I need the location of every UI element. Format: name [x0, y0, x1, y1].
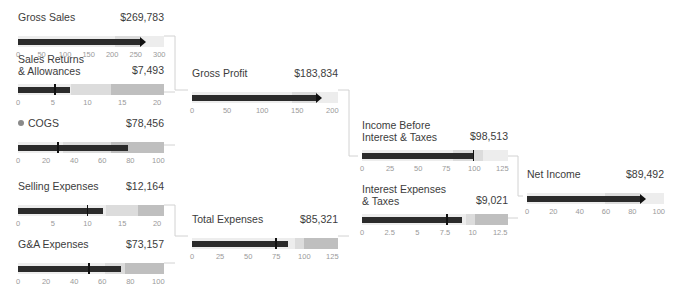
- chart-value-ga-expenses: $73,157: [73, 239, 164, 251]
- axis-tick-label: 5: [51, 219, 55, 228]
- axis-tick-label: 40: [70, 156, 78, 165]
- qualitative-band-3: [138, 205, 164, 216]
- arrow-marker-icon: [640, 194, 646, 204]
- arrow-marker-icon: [316, 93, 322, 103]
- qualitative-band-3: [111, 84, 164, 95]
- qualitative-band-2: [295, 238, 304, 249]
- axis-tick-label: 75: [272, 252, 280, 261]
- axis-tick-label: 60: [98, 277, 106, 286]
- qualitative-band-2: [71, 84, 111, 95]
- bullet-track-gross-sales: [18, 36, 164, 47]
- axis-tick-label: 0: [16, 98, 20, 107]
- bullet-track-ga-expenses: [18, 263, 164, 274]
- axis-tick-label: 50: [244, 252, 252, 261]
- measure-bar-gross-profit: [192, 95, 316, 101]
- axis-tick-label: 150: [82, 50, 95, 59]
- chart-value-total-expenses: $85,321: [247, 214, 338, 226]
- axis-tick-label: 5: [415, 228, 419, 237]
- qualitative-band-3: [475, 214, 508, 225]
- qualitative-band-2: [466, 214, 475, 225]
- axis-tick-label: 60: [98, 156, 106, 165]
- chart-label-gross-sales: Gross Sales: [18, 12, 75, 24]
- qualitative-band-2: [106, 205, 138, 216]
- x-axis-selling-expenses: 05101520: [18, 219, 164, 231]
- axis-tick-label: 10: [83, 219, 91, 228]
- measure-bar-net-income: [527, 196, 640, 202]
- axis-tick-label: 20: [153, 98, 161, 107]
- axis-tick-label: 100: [152, 156, 165, 165]
- target-marker-icon: [87, 205, 89, 216]
- target-marker-icon: [88, 263, 90, 274]
- bullet-track-gross-profit: [192, 92, 338, 103]
- x-axis-cogs: 020406080100: [18, 156, 164, 168]
- measure-bar-gross-sales: [18, 39, 140, 45]
- measure-bar-total-expenses: [192, 241, 288, 247]
- axis-tick-label: 50: [414, 164, 422, 173]
- bullet-track-cogs: [18, 142, 164, 153]
- bullet-waterfall-diagram: Gross Sales$269,783050100150200250300Sal…: [0, 0, 676, 290]
- bullet-track-net-income: [527, 193, 664, 204]
- axis-tick-label: 0: [16, 277, 20, 286]
- axis-tick-label: 0: [190, 106, 194, 115]
- axis-tick-label: 250: [129, 50, 142, 59]
- axis-tick-label: 5: [51, 98, 55, 107]
- axis-tick-label: 75: [442, 164, 450, 173]
- measure-bar-income-before-interest-taxes: [362, 153, 473, 159]
- measure-bar-cogs: [18, 145, 128, 151]
- bullet-dot-icon: [18, 120, 24, 126]
- chart-value-gross-profit: $183,834: [247, 68, 338, 80]
- axis-tick-label: 25: [386, 164, 394, 173]
- axis-tick-label: 20: [42, 277, 50, 286]
- target-marker-icon: [57, 142, 59, 153]
- qualitative-band-3: [304, 238, 338, 249]
- axis-tick-label: 15: [118, 219, 126, 228]
- bullet-track-sales-returns-allowances: [18, 84, 164, 95]
- axis-tick-label: 15: [118, 98, 126, 107]
- chart-value-selling-expenses: $12,164: [73, 181, 164, 193]
- axis-tick-label: 10: [83, 98, 91, 107]
- chart-value-gross-sales: $269,783: [73, 12, 164, 24]
- bullet-track-interest-expenses-taxes: [362, 214, 508, 225]
- axis-tick-label: 100: [468, 164, 481, 173]
- x-axis-income-before-interest-taxes: 0255075100125: [362, 164, 508, 176]
- x-axis-ga-expenses: 020406080100: [18, 277, 164, 289]
- chart-label-cogs: COGS: [18, 118, 59, 130]
- qualitative-band-3: [483, 150, 508, 161]
- axis-tick-label: 10: [468, 228, 476, 237]
- axis-tick-label: 150: [291, 106, 304, 115]
- axis-tick-label: 125: [496, 164, 509, 173]
- x-axis-gross-profit: 050100150200: [192, 106, 338, 118]
- axis-tick-label: 0: [16, 156, 20, 165]
- measure-bar-selling-expenses: [18, 208, 103, 214]
- axis-tick-label: 60: [602, 207, 610, 216]
- target-marker-icon: [275, 238, 277, 249]
- axis-tick-label: 200: [326, 106, 339, 115]
- chart-label-gross-profit: Gross Profit: [192, 68, 247, 80]
- axis-tick-label: 25: [216, 252, 224, 261]
- axis-tick-label: 80: [126, 156, 134, 165]
- axis-tick-label: 0: [525, 207, 529, 216]
- x-axis-sales-returns-allowances: 05101520: [18, 98, 164, 110]
- bullet-track-total-expenses: [192, 238, 338, 249]
- measure-bar-ga-expenses: [18, 266, 121, 272]
- axis-tick-label: 2.5: [384, 228, 394, 237]
- axis-tick-label: 0: [190, 252, 194, 261]
- axis-tick-label: 100: [152, 277, 165, 286]
- axis-tick-label: 0: [360, 164, 364, 173]
- target-marker-icon: [473, 150, 475, 161]
- axis-tick-label: 20: [153, 219, 161, 228]
- axis-tick-label: 20: [549, 207, 557, 216]
- target-marker-icon: [54, 84, 56, 95]
- x-axis-net-income: 020406080100: [527, 207, 664, 219]
- x-axis-interest-expenses-taxes: 02.557.51012.5: [362, 228, 508, 240]
- chart-label-net-income: Net Income: [527, 169, 581, 181]
- axis-tick-label: 300: [153, 50, 166, 59]
- axis-tick-label: 100: [652, 207, 665, 216]
- axis-tick-label: 0: [16, 219, 20, 228]
- target-marker-icon: [446, 214, 448, 225]
- axis-tick-label: 40: [70, 277, 78, 286]
- axis-tick-label: 125: [326, 252, 339, 261]
- axis-tick-label: 7.5: [440, 228, 450, 237]
- chart-value-interest-expenses-taxes: $9,021: [417, 195, 508, 207]
- axis-tick-label: 80: [628, 207, 636, 216]
